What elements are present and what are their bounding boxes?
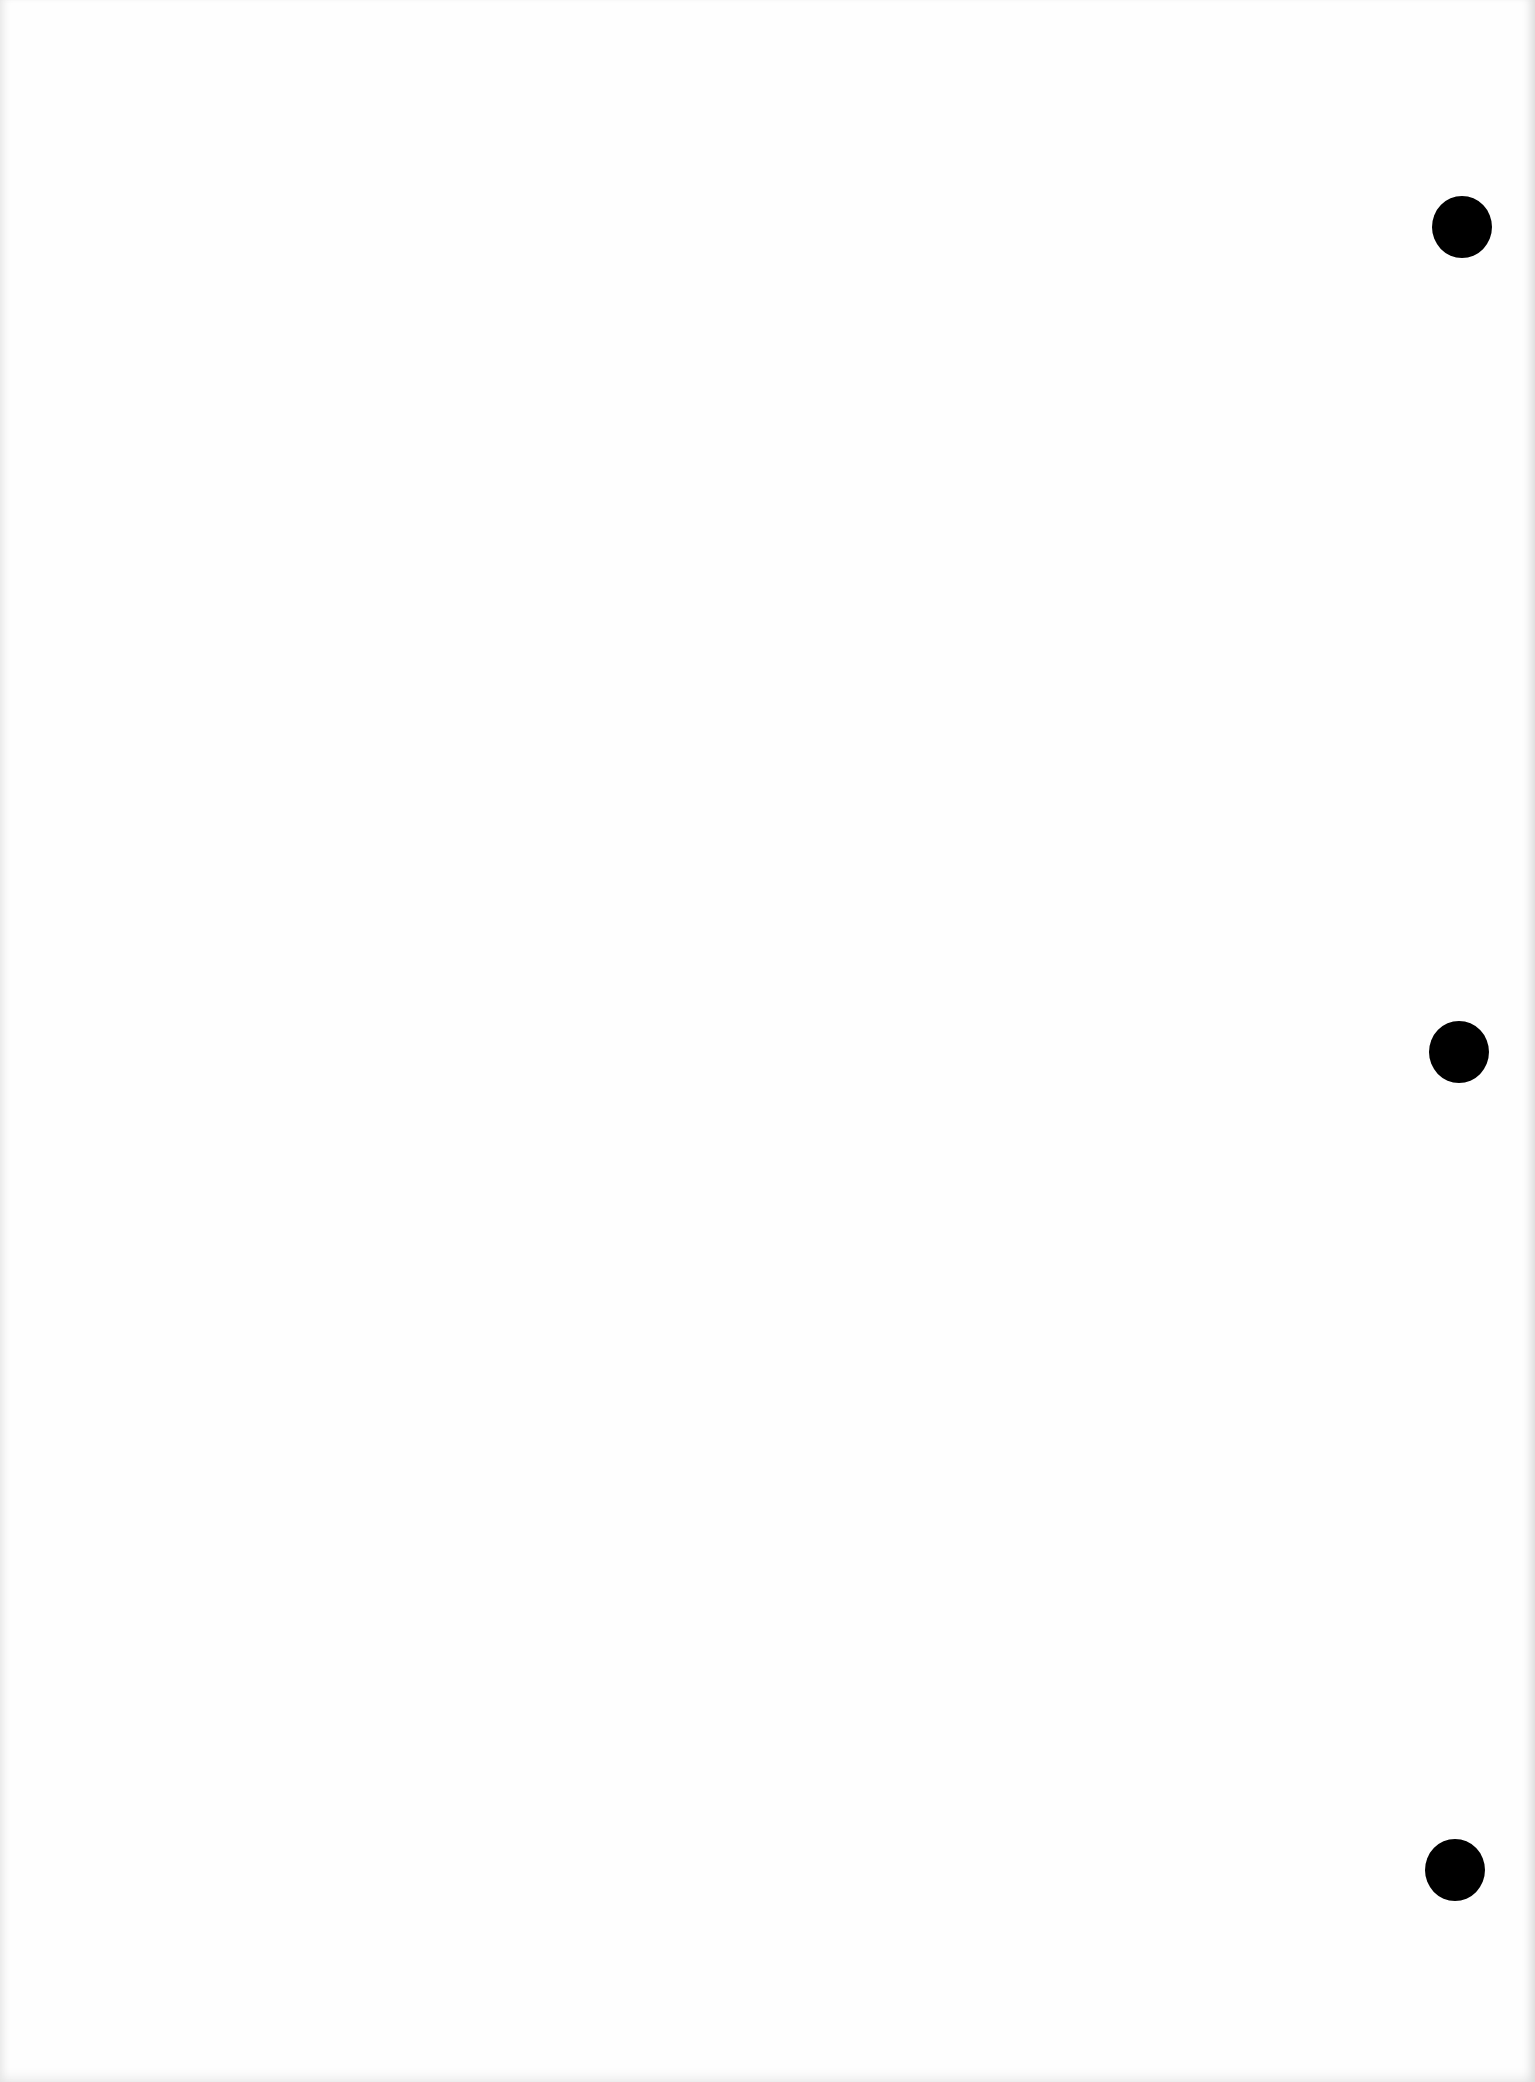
blank-paper-page: [0, 0, 1535, 2082]
punch-hole-middle: [1429, 1021, 1489, 1083]
punch-hole-top: [1432, 196, 1492, 258]
punch-hole-bottom: [1425, 1839, 1485, 1901]
